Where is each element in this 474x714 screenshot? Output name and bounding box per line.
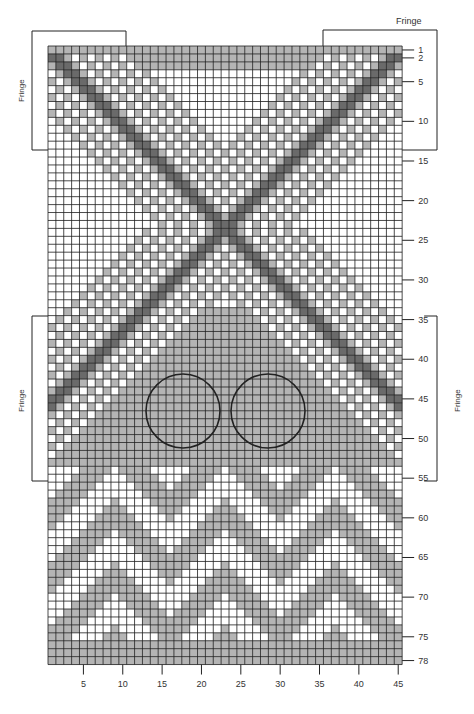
y-tick-label: 20 [418,196,428,206]
y-tick-label: 50 [418,434,428,444]
y-tick-label: 15 [418,156,428,166]
pattern-chart: 51015202530354045 1251015202530354045505… [0,0,474,714]
fringe-label-left-upper: Fringe [17,79,26,102]
fringe-label-top: Fringe [396,16,422,26]
fringe-label-right-lower: Fringe [453,389,462,412]
y-tick-label: 60 [418,513,428,523]
y-tick-label: 25 [418,235,428,245]
x-tick-label: 30 [275,679,285,689]
x-tick-label: 15 [157,679,167,689]
x-tick-label: 20 [196,679,206,689]
x-tick-label: 45 [393,679,403,689]
y-tick-label: 65 [418,552,428,562]
fringe-label-left-lower: Fringe [17,389,26,412]
y-tick-label: 78 [418,656,428,666]
y-tick-label: 55 [418,473,428,483]
y-tick-label: 35 [418,315,428,325]
x-tick-label: 10 [118,679,128,689]
y-tick-label: 10 [418,116,428,126]
x-tick-label: 25 [236,679,246,689]
y-tick-label: 75 [418,632,428,642]
x-tick-label: 5 [81,679,86,689]
y-tick-label: 40 [418,354,428,364]
y-tick-label: 2 [418,53,423,63]
y-tick-label: 45 [418,394,428,404]
y-tick-label: 5 [418,77,423,87]
y-axis-ticks: 125101520253035404550556065707578 [402,45,428,666]
x-axis-ticks: 51015202530354045 [81,665,403,689]
x-tick-label: 40 [354,679,364,689]
y-tick-label: 70 [418,592,428,602]
x-tick-label: 35 [315,679,325,689]
y-tick-label: 30 [418,275,428,285]
